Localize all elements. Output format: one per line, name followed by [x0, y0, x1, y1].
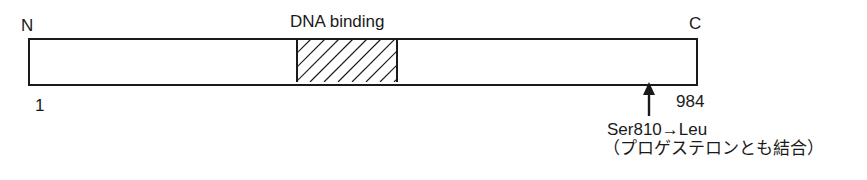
c-terminus-label: C [689, 15, 701, 32]
mutation-arrow-icon [642, 82, 656, 118]
mutation-label: Ser810→Leu [607, 120, 707, 139]
dna-binding-domain [296, 38, 398, 82]
mutation-note: （プロゲステロンとも結合） [603, 139, 824, 158]
end-position-label: 984 [676, 93, 704, 110]
hatch-pattern [298, 38, 396, 82]
n-terminus-label: N [21, 17, 33, 34]
start-position-label: 1 [35, 97, 44, 114]
protein-bar [28, 38, 698, 86]
domain-label: DNA binding [290, 13, 385, 30]
